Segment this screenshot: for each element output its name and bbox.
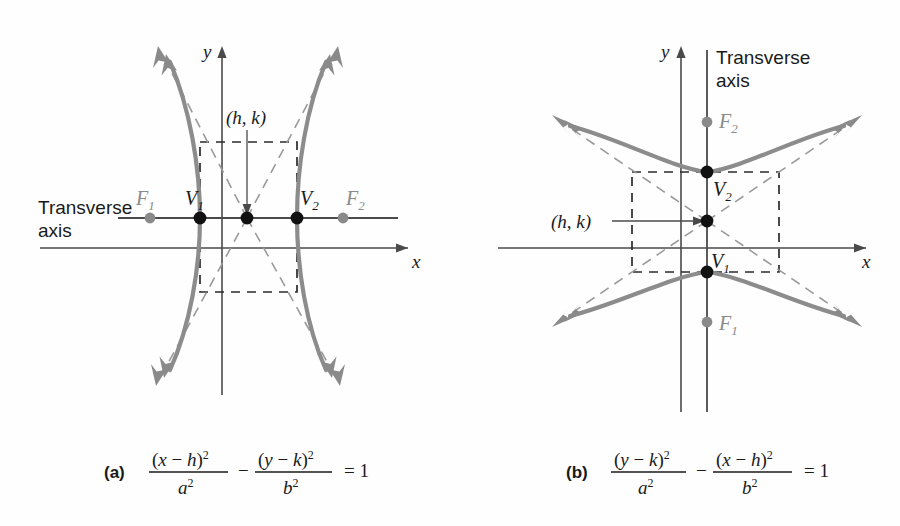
panel-b-x-axis-label: x: [861, 251, 871, 272]
panel-a-equation: (x − h)2 a2 − (y − k)2 b2 = 1: [149, 448, 369, 498]
panel-a-y-axis: [217, 46, 226, 395]
panel-b-y-axis-label: y: [659, 41, 670, 62]
panel-a-vertex-2-dot: [291, 212, 304, 225]
panel-b-vertex-2-label: V2: [713, 178, 732, 204]
panel-a-eq-denominator-1: a2: [178, 476, 194, 498]
panel-b-equation: (y − k)2 a2 − (x − h)2 b2 = 1: [611, 448, 829, 498]
panel-b-transverse-label-line2: axis: [716, 70, 750, 91]
panel-a-transverse-label-line2: axis: [38, 220, 72, 241]
panel-a-eq-numerator-2: (y − k)2: [258, 448, 314, 471]
panel-a-center-label: (h, k): [226, 107, 266, 129]
panel-b-focus-1-dot: [702, 317, 713, 328]
panel-a-vertex-1-dot: [194, 212, 207, 225]
panel-a-transverse-label-line1: Transverse: [38, 197, 132, 218]
panel-a-focus-1-label: F1: [135, 187, 155, 213]
panel-a-x-axis: [40, 243, 408, 252]
panel-a-eq-denominator-2: b2: [283, 476, 299, 498]
panel-a-x-axis-label: x: [411, 251, 421, 272]
panel-a-vertex-2-label: V2: [300, 187, 319, 213]
panel-a-y-axis-label: y: [201, 41, 212, 62]
panel-a-center-dot: [241, 212, 254, 225]
panel-a-focus-2-dot: [338, 213, 349, 224]
panel-b-center-dot: [701, 215, 714, 228]
panel-a-focus-2-label: F2: [345, 187, 365, 213]
panel-a-center-pointer: [243, 130, 252, 216]
panel-b-letter: (b): [566, 463, 588, 482]
hyperbola-figure: x y: [0, 0, 900, 526]
panel-a: x y: [38, 41, 421, 498]
panel-b-eq-denominator-2: b2: [742, 476, 758, 498]
panel-b-eq-equals: = 1: [804, 460, 829, 481]
panel-a-letter: (a): [104, 463, 125, 482]
panel-b-focus-1-label: F1: [718, 312, 738, 338]
panel-b-eq-denominator-1: a2: [638, 476, 654, 498]
panel-a-eq-operator: −: [238, 460, 249, 481]
panel-b: x y: [498, 41, 871, 498]
panel-b-x-axis: [498, 243, 866, 252]
panel-a-eq-equals: = 1: [344, 460, 369, 481]
panel-a-focus-1-dot: [145, 213, 156, 224]
panel-b-focus-2-dot: [702, 117, 713, 128]
panel-b-eq-operator: −: [696, 460, 707, 481]
panel-b-focus-2-label: F2: [718, 110, 738, 136]
panel-b-eq-numerator-1: (y − k)2: [614, 448, 670, 471]
panel-b-y-axis: [676, 46, 685, 412]
panel-b-eq-numerator-2: (x − h)2: [716, 448, 773, 471]
panel-b-vertex-2-dot: [701, 166, 714, 179]
panel-b-center-label: (h, k): [551, 211, 591, 233]
panel-b-transverse-label-line1: Transverse: [716, 47, 810, 68]
panel-a-eq-numerator-1: (x − h)2: [152, 448, 209, 471]
panel-b-center-pointer: [612, 217, 705, 226]
